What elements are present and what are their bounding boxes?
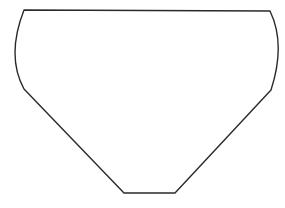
- vessel-outline: [15, 10, 278, 193]
- vessel-profile-drawing: [0, 0, 285, 208]
